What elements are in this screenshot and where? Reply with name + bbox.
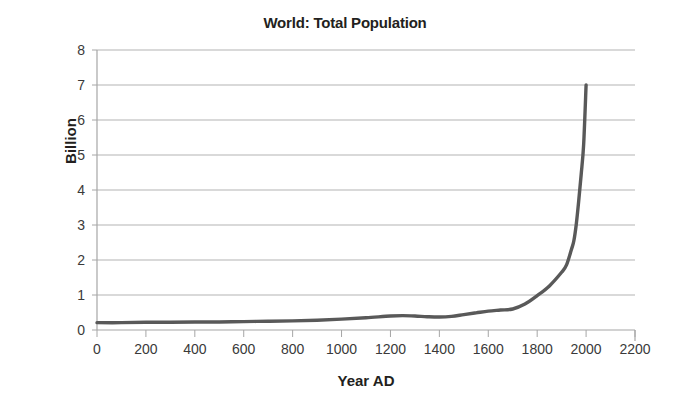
- x-axis-ticks: [97, 330, 635, 337]
- gridlines: [97, 50, 635, 295]
- axis-lines: [97, 50, 635, 341]
- y-axis-ticks: [92, 50, 97, 330]
- population-series-line: [97, 85, 586, 323]
- plot-area: [0, 0, 690, 417]
- population-line-chart: World: Total Population Billion Year AD …: [0, 0, 690, 417]
